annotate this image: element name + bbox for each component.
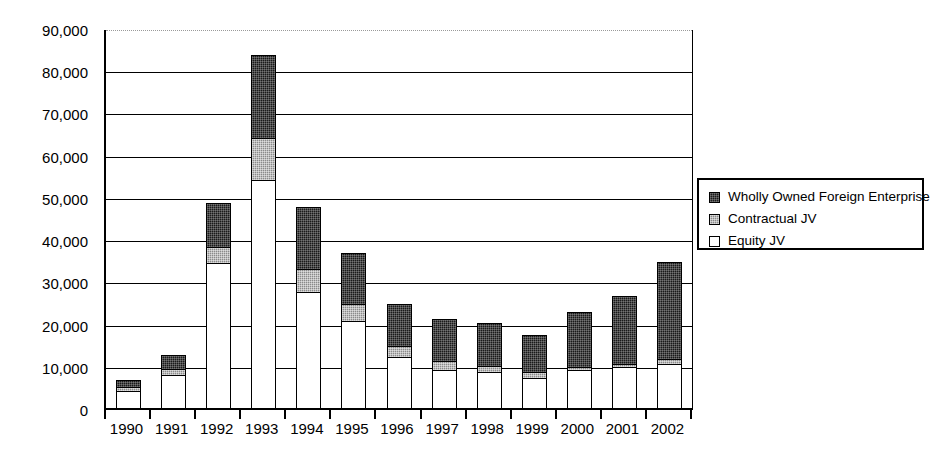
bar-segment[interactable] [161,375,186,410]
y-axis-tick-label: 0 [80,403,88,418]
bar-segment[interactable] [296,292,321,410]
bar-series-container [106,30,692,410]
bar-segment[interactable] [206,247,231,262]
y-axis-tick-label: 10,000 [42,360,88,375]
bar-segment[interactable] [477,372,502,410]
bar-segment[interactable] [522,335,547,372]
stacked-bar-chart: 010,00020,00030,00040,00050,00060,00070,… [0,0,937,460]
x-axis-tick-label: 1995 [335,420,368,437]
bar-group-1992[interactable] [206,203,231,410]
bar-segment[interactable] [206,263,231,410]
bar-segment[interactable] [657,364,682,410]
y-axis-tick-label: 80,000 [42,65,88,80]
x-axis-tick-label: 1998 [470,420,503,437]
bar-segment[interactable] [432,370,457,410]
bar-segment[interactable] [522,378,547,410]
bar-segment[interactable] [387,304,412,345]
bar-segment[interactable] [251,55,276,137]
bar-group-1990[interactable] [116,380,141,410]
x-axis-tick [374,410,376,419]
bar-segment[interactable] [567,312,592,367]
bar-segment[interactable] [612,296,637,364]
bar-group-2002[interactable] [657,262,682,410]
chart-legend: Wholly Owned Foreign Enterprise Contract… [697,178,924,250]
plot-area [104,30,693,410]
bar-segment[interactable] [612,367,637,410]
bar-segment[interactable] [341,321,366,410]
x-axis-tick [329,410,331,419]
legend-swatch-icon-contractual [709,214,720,225]
y-axis-tick-label: 60,000 [42,149,88,164]
y-axis-tick-label: 50,000 [42,191,88,206]
legend-item-wholly-owned-foreign-enterprise[interactable]: Wholly Owned Foreign Enterprise [709,187,922,207]
bar-segment[interactable] [206,203,231,247]
legend-swatch-icon-equity [709,236,720,247]
y-axis-tick-label: 90,000 [42,23,88,38]
bar-segment[interactable] [161,355,186,369]
bar-segment[interactable] [296,207,321,268]
bar-group-1991[interactable] [161,355,186,410]
x-axis-tick-label: 1991 [155,420,188,437]
x-axis-tick [239,410,241,419]
x-axis-tick-label: 2002 [651,420,684,437]
bar-segment[interactable] [251,138,276,180]
x-axis-tick [690,410,692,419]
legend-label: Equity JV [728,234,785,248]
bar-segment[interactable] [432,361,457,370]
bar-segment[interactable] [432,319,457,361]
bar-segment[interactable] [387,346,412,357]
x-axis-tick-label: 1996 [380,420,413,437]
x-axis-tick-label: 2001 [606,420,639,437]
x-axis-tick-label: 1997 [425,420,458,437]
x-axis-tick [510,410,512,419]
x-axis-tick [420,410,422,419]
x-axis-tick [645,410,647,419]
legend-item-equity-jv[interactable]: Equity JV [709,231,922,251]
x-axis-tick-label: 1993 [245,420,278,437]
bar-segment[interactable] [296,269,321,292]
x-axis-tick [600,410,602,419]
bar-segment[interactable] [251,180,276,410]
legend-label: Wholly Owned Foreign Enterprise [728,190,930,204]
x-axis-tick [465,410,467,419]
x-axis-tick-labels: 1990199119921993199419951996199719981999… [104,420,690,446]
x-axis-ticks [104,410,691,419]
bar-group-1997[interactable] [432,319,457,410]
x-axis-tick-label: 1990 [110,420,143,437]
y-axis-tick-label: 30,000 [42,276,88,291]
bar-group-2000[interactable] [567,312,592,410]
x-axis-tick-label: 1994 [290,420,323,437]
x-axis-tick [149,410,151,419]
bar-group-1993[interactable] [251,55,276,410]
bar-segment[interactable] [341,304,366,321]
x-axis-tick [104,410,106,419]
bar-group-1996[interactable] [387,304,412,410]
y-axis-tick-label: 40,000 [42,234,88,249]
x-axis-tick-label: 2000 [561,420,594,437]
y-axis-tick-label: 20,000 [42,318,88,333]
x-axis-tick [555,410,557,419]
bar-group-1999[interactable] [522,335,547,410]
legend-swatch-icon-wholly [709,192,720,203]
bar-segment[interactable] [477,323,502,365]
bar-group-1998[interactable] [477,323,502,410]
bar-segment[interactable] [477,366,502,373]
bar-segment[interactable] [567,370,592,410]
bar-group-1995[interactable] [341,253,366,410]
legend-label: Contractual JV [728,212,817,226]
bar-group-1994[interactable] [296,207,321,410]
legend-item-contractual-jv[interactable]: Contractual JV [709,209,922,229]
bar-segment[interactable] [341,253,366,304]
bar-group-2001[interactable] [612,296,637,410]
x-axis-tick-label: 1999 [516,420,549,437]
y-axis-tick-label: 70,000 [42,107,88,122]
x-axis-tick [284,410,286,419]
x-axis-tick [194,410,196,419]
bar-segment[interactable] [657,262,682,359]
y-axis-tick-labels: 010,00020,00030,00040,00050,00060,00070,… [0,0,96,460]
x-axis-tick-label: 1992 [200,420,233,437]
bar-segment[interactable] [387,357,412,410]
